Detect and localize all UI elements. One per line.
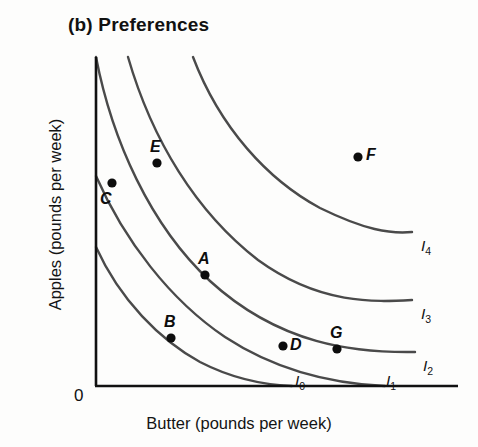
- indifference-curve-i3: [128, 57, 412, 301]
- data-point-d: [278, 341, 287, 350]
- data-point-a: [200, 270, 209, 279]
- indifference-curve-i1: [96, 176, 385, 386]
- data-points: [107, 152, 362, 353]
- indifference-curve-i4: [193, 57, 412, 232]
- curve-label-i1: I1: [386, 372, 396, 392]
- point-label-e: E: [150, 138, 161, 156]
- preferences-figure: (b) Preferences ABCDEFG I0I1I2I3I4 0 But…: [0, 0, 478, 447]
- point-label-c: C: [100, 190, 112, 208]
- point-label-f: F: [366, 146, 376, 164]
- curve-label-i4: I4: [421, 237, 431, 257]
- data-point-g: [332, 344, 341, 353]
- point-label-b: B: [164, 313, 176, 331]
- indifference-curve-i0: [96, 247, 292, 386]
- data-point-b: [166, 333, 175, 342]
- indifference-curves: [96, 57, 415, 386]
- point-label-g: G: [330, 324, 342, 342]
- data-point-e: [152, 158, 161, 167]
- point-label-d: D: [290, 336, 302, 354]
- curve-label-i3: I3: [421, 305, 431, 325]
- curve-label-i2: I2: [423, 357, 433, 377]
- origin-label: 0: [74, 386, 83, 406]
- data-point-f: [353, 152, 362, 161]
- indifference-curve-plot: [0, 0, 478, 447]
- axis-lines: [95, 57, 458, 386]
- x-axis-label: Butter (pounds per week): [0, 414, 478, 433]
- data-point-c: [107, 178, 116, 187]
- y-axis-label: Apples (pounds per week): [46, 65, 65, 365]
- point-label-a: A: [198, 250, 210, 268]
- curve-label-i0: I0: [295, 372, 305, 392]
